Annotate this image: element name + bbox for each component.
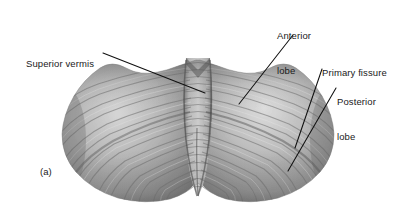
label-anterior-lobe: Anterior lobe: [277, 7, 311, 99]
label-posterior-lobe-line-1: Posterior: [337, 96, 376, 108]
label-posterior-lobe-line-2: lobe: [337, 131, 376, 143]
figure-caption-label: (a): [40, 166, 52, 177]
label-posterior-lobe: Posterior lobe: [337, 73, 376, 165]
label-superior-vermis: Superior vermis: [15, 46, 94, 81]
label-anterior-lobe-line-2: lobe: [277, 65, 311, 77]
label-anterior-lobe-line-1: Anterior: [277, 30, 311, 42]
label-superior-vermis-line-1: Superior vermis: [26, 58, 94, 69]
figure-container: Superior vermis Anterior lobe Primary fi…: [0, 0, 396, 223]
